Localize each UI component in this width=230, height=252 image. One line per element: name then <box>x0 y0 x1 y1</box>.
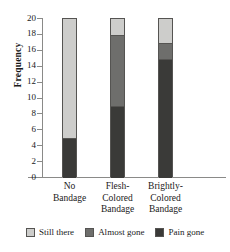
x-axis-label: Brightly-ColoredBandage <box>124 181 208 216</box>
bar-stack <box>158 18 173 177</box>
legend-item[interactable]: Still there <box>26 227 74 237</box>
bar-segment <box>159 59 172 178</box>
legend-swatch-icon <box>85 228 94 237</box>
y-tick-mark <box>37 177 42 178</box>
y-tick-label: 8 <box>14 109 36 118</box>
bar-stack <box>62 18 77 177</box>
legend-swatch-icon <box>26 228 35 237</box>
legend-item[interactable]: Pain gone <box>155 227 204 237</box>
bar-segment <box>111 19 124 35</box>
bar-segment <box>159 43 172 59</box>
stacked-bar-chart: Frequency 20181614121086420 NoBandageFle… <box>0 0 230 252</box>
legend-label: Almost gone <box>98 227 144 237</box>
y-tick-label: 16 <box>14 45 36 54</box>
y-tick-label: 2 <box>14 157 36 166</box>
y-tick-label: 20 <box>14 14 36 23</box>
y-tick-label: 10 <box>14 93 36 102</box>
legend-swatch-icon <box>155 228 164 237</box>
x-axis-label-line: Colored <box>124 193 208 205</box>
x-axis-line <box>28 177 226 178</box>
legend-item[interactable]: Almost gone <box>85 227 144 237</box>
bar-segment <box>159 19 172 43</box>
y-tick-label: 14 <box>14 61 36 70</box>
legend-label: Still there <box>39 227 74 237</box>
y-tick-label: 4 <box>14 141 36 150</box>
x-axis-label-line: Brightly- <box>124 181 208 193</box>
bar-segment <box>111 35 124 107</box>
bar-segment <box>111 106 124 178</box>
y-tick-label: 12 <box>14 77 36 86</box>
bar-segment <box>63 19 76 138</box>
bar-stack <box>110 18 125 177</box>
x-axis-label-line: Bandage <box>124 204 208 216</box>
plot-area <box>42 18 212 177</box>
y-tick-label: 6 <box>14 125 36 134</box>
bar-segment <box>63 138 76 178</box>
y-tick-label: 18 <box>14 29 36 38</box>
chart-legend: Still thereAlmost gonePain gone <box>0 227 230 237</box>
legend-label: Pain gone <box>168 227 204 237</box>
